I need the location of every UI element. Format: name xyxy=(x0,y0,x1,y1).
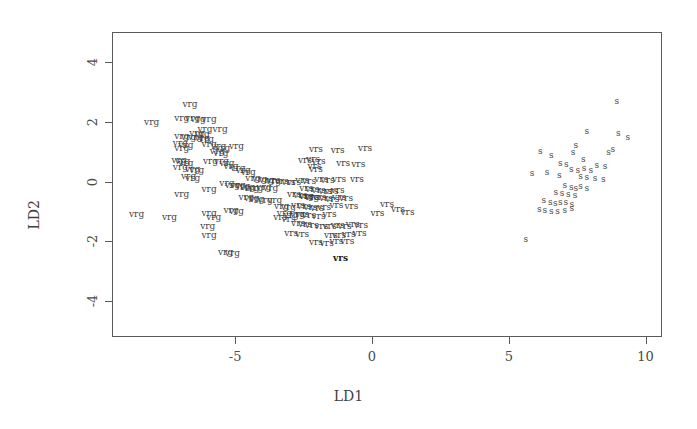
x-tick xyxy=(646,337,647,344)
y-tick-label: 2 xyxy=(85,118,100,126)
y-tick xyxy=(105,122,112,123)
y-tick xyxy=(105,301,112,302)
x-tick xyxy=(372,337,373,344)
y-tick xyxy=(105,182,112,183)
x-tick-label: 10 xyxy=(637,349,654,364)
x-axis-title: LD1 xyxy=(0,388,697,404)
x-tick-label: -5 xyxy=(229,349,242,364)
y-tick-label: -4 xyxy=(85,295,100,308)
lda-scatter-plot: vrgvrgvrgvrgvrgvrgvrgvrgvrgvrgvrgvrgvrgv… xyxy=(0,0,697,429)
x-tick xyxy=(235,337,236,344)
x-tick xyxy=(509,337,510,344)
y-tick-label: 0 xyxy=(85,177,100,185)
y-axis-title-text: LD2 xyxy=(26,200,42,229)
y-axis-title: LD2 xyxy=(22,0,46,429)
y-tick-label: -2 xyxy=(85,235,100,248)
x-tick-label: 0 xyxy=(368,349,376,364)
plot-frame xyxy=(112,32,662,337)
y-tick-label: 4 xyxy=(85,58,100,66)
x-tick-label: 5 xyxy=(505,349,513,364)
y-tick xyxy=(105,62,112,63)
y-tick xyxy=(105,241,112,242)
